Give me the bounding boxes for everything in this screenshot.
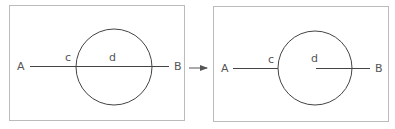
right-label-a: A (221, 62, 229, 75)
left-label-b: B (174, 60, 182, 73)
right-label-b: B (375, 62, 383, 75)
left-panel: A c d B (10, 6, 185, 121)
left-label-a: A (17, 60, 25, 73)
left-label-c: c (65, 51, 71, 64)
left-panel-frame (10, 6, 185, 121)
diagram-canvas: A c d B A c d B (0, 0, 395, 129)
right-panel-frame (214, 7, 389, 122)
left-label-d: d (109, 51, 116, 64)
right-label-d: d (311, 52, 318, 65)
right-label-c: c (268, 53, 274, 66)
right-panel: A c d B (214, 7, 389, 122)
